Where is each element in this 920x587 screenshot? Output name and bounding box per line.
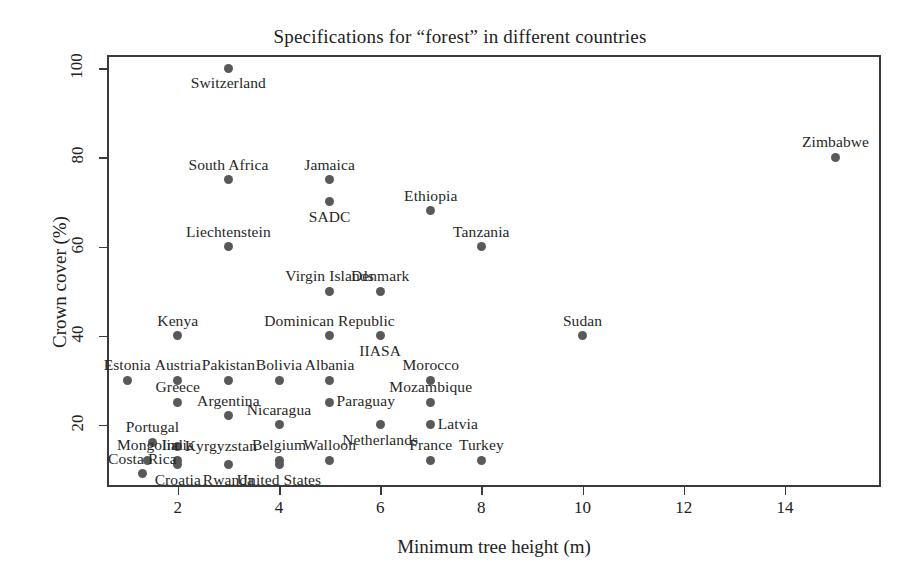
data-point-label: Portugal [126, 418, 179, 436]
y-tick-mark [99, 425, 107, 427]
data-point-label: Belgium [252, 436, 306, 454]
data-point-label: Austria [155, 356, 201, 374]
data-point [138, 469, 147, 478]
data-point-label: Kyrgyzstan [185, 437, 257, 455]
y-tick-label: 100 [62, 56, 92, 76]
data-point-label: Estonia [104, 356, 151, 374]
data-point [376, 420, 385, 429]
data-point-label: Nicaragua [247, 401, 312, 419]
data-point [376, 331, 385, 340]
data-point-label: South Africa [188, 156, 268, 174]
data-point [325, 376, 334, 385]
data-point [173, 398, 182, 407]
data-point [173, 331, 182, 340]
data-point-label: Tanzania [453, 223, 510, 241]
y-tick-mark [99, 157, 107, 159]
data-point-label: Switzerland [191, 74, 266, 92]
data-point [325, 175, 334, 184]
data-point-label: Kenya [157, 312, 198, 330]
data-point [224, 175, 233, 184]
data-point-label: SADC [309, 208, 351, 226]
data-point-label: France [409, 436, 452, 454]
data-point [224, 376, 233, 385]
data-point [376, 287, 385, 296]
data-point [325, 456, 334, 465]
data-point [224, 242, 233, 251]
data-point [224, 411, 233, 420]
scatter-chart: Specifications for “forest” in different… [0, 0, 920, 587]
data-point [224, 64, 233, 73]
y-tick-mark [99, 247, 107, 249]
data-point-label: Greece [156, 378, 200, 396]
data-point [426, 456, 435, 465]
data-point-label: Latvia [438, 415, 478, 433]
x-tick-mark [481, 487, 483, 495]
y-tick-label: 20 [62, 413, 92, 433]
data-point-label: Turkey [459, 436, 504, 454]
data-point-label: Dominican Republic [264, 312, 395, 330]
data-point [275, 420, 284, 429]
data-point-label: Morocco [402, 356, 459, 374]
data-point [123, 376, 132, 385]
x-tick-label: 6 [376, 498, 385, 518]
data-point-label: Zimbabwe [802, 133, 869, 151]
x-tick-mark [684, 487, 686, 495]
x-tick-mark [380, 487, 382, 495]
data-point [831, 153, 840, 162]
data-point [578, 331, 587, 340]
data-point-label: IIASA [359, 342, 401, 360]
y-tick-mark [99, 336, 107, 338]
data-point [477, 456, 486, 465]
data-point-label: Croatia [155, 471, 201, 489]
chart-title: Specifications for “forest” in different… [0, 26, 920, 48]
data-point-label: Denmark [351, 267, 409, 285]
data-point-label: Jamaica [304, 156, 355, 174]
data-point-label: Walloon [303, 436, 356, 454]
data-point-label: Mozambique [389, 378, 472, 396]
x-tick-label: 12 [675, 498, 692, 518]
y-tick-mark [99, 68, 107, 70]
plot-area: SwitzerlandSouth AfricaJamaicaSADCEthiop… [107, 55, 881, 487]
data-point [325, 331, 334, 340]
data-point [275, 376, 284, 385]
data-point-label: Ethiopia [404, 187, 457, 205]
y-tick-label: 40 [62, 324, 92, 344]
x-tick-label: 2 [174, 498, 183, 518]
data-point [426, 420, 435, 429]
data-point-label: Sudan [563, 312, 602, 330]
data-point-label: Albania [305, 356, 355, 374]
x-tick-mark [785, 487, 787, 495]
data-point-label: Pakistan [202, 356, 255, 374]
data-point [477, 242, 486, 251]
x-axis-title: Minimum tree height (m) [107, 536, 881, 558]
y-tick-label: 60 [62, 235, 92, 255]
data-point [275, 460, 284, 469]
data-point [325, 398, 334, 407]
data-point-label: Paraguay [337, 392, 395, 410]
data-point [325, 197, 334, 206]
x-tick-mark [583, 487, 585, 495]
data-point [426, 206, 435, 215]
x-tick-label: 4 [275, 498, 284, 518]
data-point-label: United States [237, 471, 321, 489]
data-point [325, 287, 334, 296]
data-point [426, 398, 435, 407]
y-tick-label: 80 [62, 145, 92, 165]
data-point [224, 460, 233, 469]
data-point-label: Costa Rica [108, 450, 177, 468]
y-axis-title: Crown cover (%) [49, 66, 71, 498]
x-tick-label: 8 [477, 498, 486, 518]
x-tick-label: 14 [776, 498, 793, 518]
data-point-label: Liechtenstein [186, 223, 271, 241]
data-point-label: Bolivia [256, 356, 302, 374]
x-tick-label: 10 [574, 498, 591, 518]
